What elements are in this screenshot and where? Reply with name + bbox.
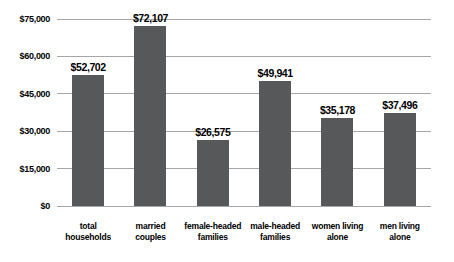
category-label-line: families [182,232,244,243]
category-label: women livingalone [306,221,368,243]
category-label-line: female-headed [182,221,244,232]
category-label: totalhouseholds [57,221,119,243]
y-tick-label: $30,000 [0,126,50,136]
bar-value-label: $72,107 [133,12,168,24]
bar-slot: $26,575 [182,19,244,206]
y-axis: $0$15,000$30,000$45,000$60,000$75,000 [0,19,50,206]
y-tick-label: $75,000 [0,14,50,24]
category-label-line: alone [306,232,368,243]
bar [134,26,166,206]
category-label-line: women living [306,221,368,232]
x-axis-labels: totalhouseholdsmarriedcouplesfemale-head… [57,221,431,243]
bar-slot: $37,496 [369,19,431,206]
category-label-line: households [57,232,119,243]
bar [321,118,353,206]
bar-value-label: $26,575 [195,126,230,138]
category-label: men livingalone [369,221,431,243]
bar-value-label: $37,496 [382,99,417,111]
y-tick-label: $60,000 [0,51,50,61]
bar-value-label: $49,941 [258,67,293,79]
category-label-line: male-headed [244,221,306,232]
bar-slot: $72,107 [119,19,181,206]
y-tick-label: $0 [0,201,50,211]
category-label-line: men living [369,221,431,232]
bar [197,140,229,206]
category-label: female-headedfamilies [182,221,244,243]
bar-chart: $0$15,000$30,000$45,000$60,000$75,000 $5… [0,0,454,262]
plot-area: $52,702$72,107$26,575$49,941$35,178$37,4… [57,19,431,206]
y-tick-label: $45,000 [0,89,50,99]
category-label-line: alone [369,232,431,243]
bar-slot: $35,178 [306,19,368,206]
bar [72,75,104,206]
bar [259,81,291,206]
bar-value-label: $52,702 [71,61,106,73]
bar-slot: $49,941 [244,19,306,206]
bar-value-label: $35,178 [320,104,355,116]
bar-slot: $52,702 [57,19,119,206]
y-tick-label: $15,000 [0,164,50,174]
category-label-line: couples [119,232,181,243]
category-label-line: married [119,221,181,232]
category-label: marriedcouples [119,221,181,243]
category-label-line: families [244,232,306,243]
bar [384,113,416,206]
category-label: male-headedfamilies [244,221,306,243]
category-label-line: total [57,221,119,232]
bars-row: $52,702$72,107$26,575$49,941$35,178$37,4… [57,19,431,206]
